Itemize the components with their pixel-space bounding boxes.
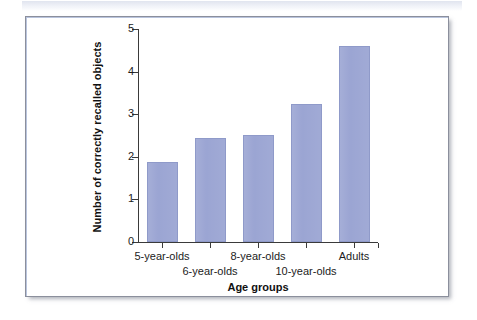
y-axis-tick-label: 2 bbox=[128, 150, 134, 163]
bar bbox=[339, 46, 370, 242]
y-axis-title: Number of correctly recalled objects bbox=[90, 0, 104, 31]
y-axis-tick-label: 5 bbox=[128, 22, 134, 35]
x-axis-tick bbox=[210, 243, 211, 248]
bar bbox=[147, 162, 178, 242]
y-axis-line bbox=[138, 29, 139, 243]
x-axis-tick bbox=[306, 243, 307, 248]
x-axis-tick bbox=[354, 243, 355, 248]
x-axis-tick-label: 5-year-olds bbox=[134, 250, 189, 263]
x-axis-tick-label: 6-year-olds bbox=[182, 265, 237, 278]
x-axis-tick-label: Adults bbox=[339, 250, 370, 263]
scanned-page-top-band-fade bbox=[22, 7, 462, 11]
bar bbox=[195, 138, 226, 242]
x-axis-tick bbox=[258, 243, 259, 248]
bar bbox=[243, 135, 274, 242]
bar bbox=[291, 104, 322, 242]
y-axis-tick-label: 0 bbox=[128, 235, 134, 248]
y-axis-tick-label: 4 bbox=[128, 65, 134, 78]
x-axis-end-tick bbox=[378, 243, 379, 248]
figure-panel: 543210 5-year-olds6-year-olds8-year-olds… bbox=[25, 16, 449, 297]
x-axis-tick-label: 10-year-olds bbox=[275, 265, 336, 278]
y-axis-title-text: Number of correctly recalled objects bbox=[90, 31, 104, 243]
y-axis-tick-label: 3 bbox=[128, 107, 134, 120]
bar-chart-plot-area: 543210 5-year-olds6-year-olds8-year-olds… bbox=[26, 17, 450, 298]
x-axis-title: Age groups bbox=[138, 281, 378, 293]
x-axis-tick bbox=[162, 243, 163, 248]
y-axis-tick-label: 1 bbox=[128, 192, 134, 205]
x-axis-tick-label: 8-year-olds bbox=[230, 250, 285, 263]
